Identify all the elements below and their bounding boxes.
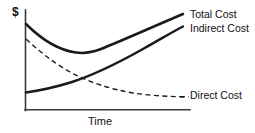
y-axis-label: $	[12, 6, 19, 18]
indirect-cost-label: Indirect Cost	[190, 23, 249, 34]
direct-cost-label: Direct Cost	[190, 90, 242, 101]
cost-curve-chart: $ Time Total Cost Indirect Cost Direct C…	[0, 0, 255, 133]
total-cost-label: Total Cost	[190, 9, 237, 20]
total-cost-curve	[26, 14, 183, 53]
indirect-cost-curve	[26, 27, 183, 93]
x-axis-label: Time	[88, 116, 112, 127]
